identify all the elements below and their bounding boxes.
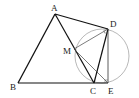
label-B: B <box>10 82 16 92</box>
label-A: A <box>51 3 58 13</box>
segment-AD <box>55 14 108 29</box>
label-C: C <box>90 86 96 96</box>
label-E: E <box>108 86 114 96</box>
segment-MD <box>74 29 108 49</box>
label-D: D <box>110 19 117 29</box>
geometry-figure: A B C D E M <box>0 0 139 98</box>
circle-through-M-D-E <box>75 29 129 83</box>
segment-CD <box>94 29 108 83</box>
segment-AB <box>18 14 55 83</box>
label-M: M <box>63 46 71 56</box>
